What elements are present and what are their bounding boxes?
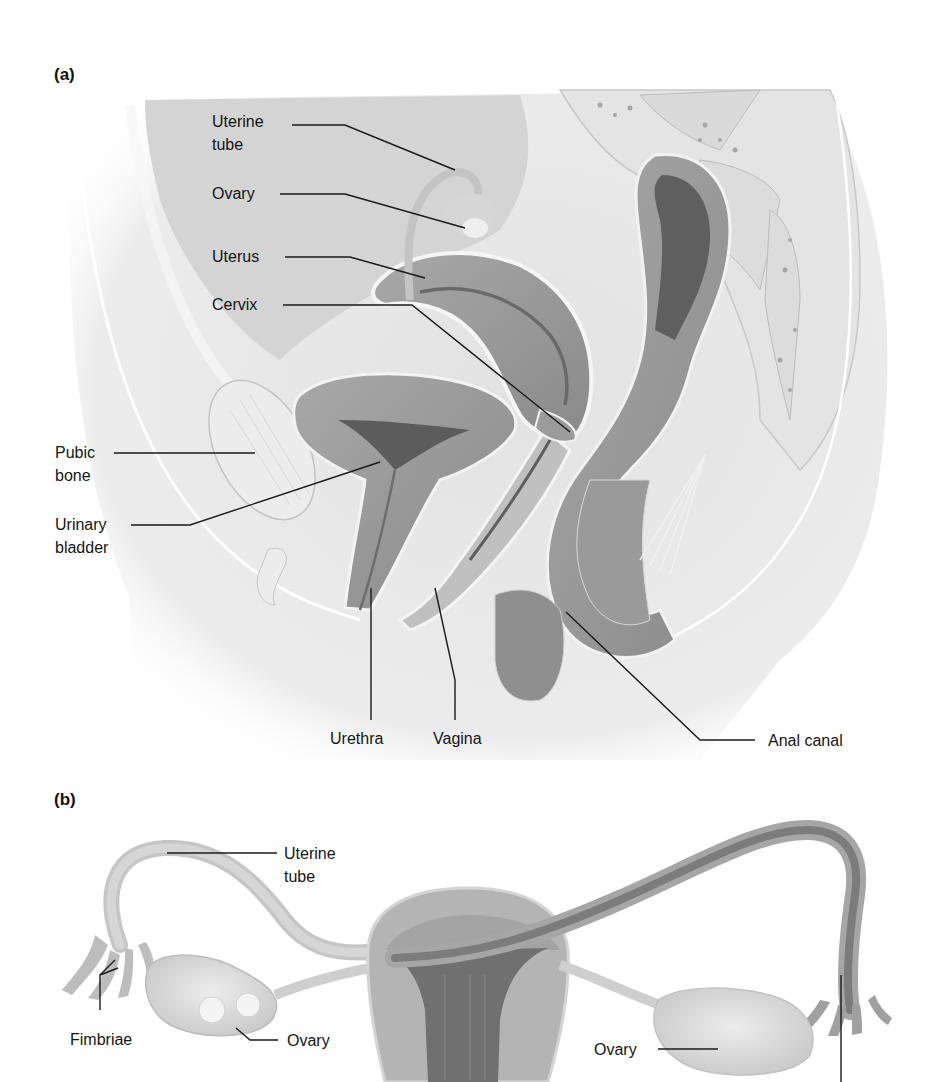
label-b-uterine-tube: Uterine tube (284, 842, 336, 888)
label-pubic-bone: Pubic bone (55, 441, 95, 487)
label-ovary: Ovary (212, 182, 255, 205)
label-cervix: Cervix (212, 293, 257, 316)
frontal-view (62, 830, 892, 1082)
label-urinary-bladder: Urinary bladder (55, 513, 108, 559)
label-uterus: Uterus (212, 245, 259, 268)
label-uterine-tube: Uterine tube (212, 110, 264, 156)
label-b-ovary-right: Ovary (594, 1038, 637, 1061)
label-fimbriae: Fimbriae (70, 1028, 132, 1051)
label-b-ovary-left: Ovary (287, 1029, 330, 1052)
label-anal-canal: Anal canal (768, 729, 843, 752)
anatomy-illustration (0, 0, 936, 1082)
label-vagina: Vagina (433, 727, 482, 750)
panel-b-letter: (b) (54, 790, 76, 810)
sagittal-section (68, 90, 887, 760)
label-urethra: Urethra (330, 727, 383, 750)
panel-a-letter: (a) (54, 65, 75, 85)
